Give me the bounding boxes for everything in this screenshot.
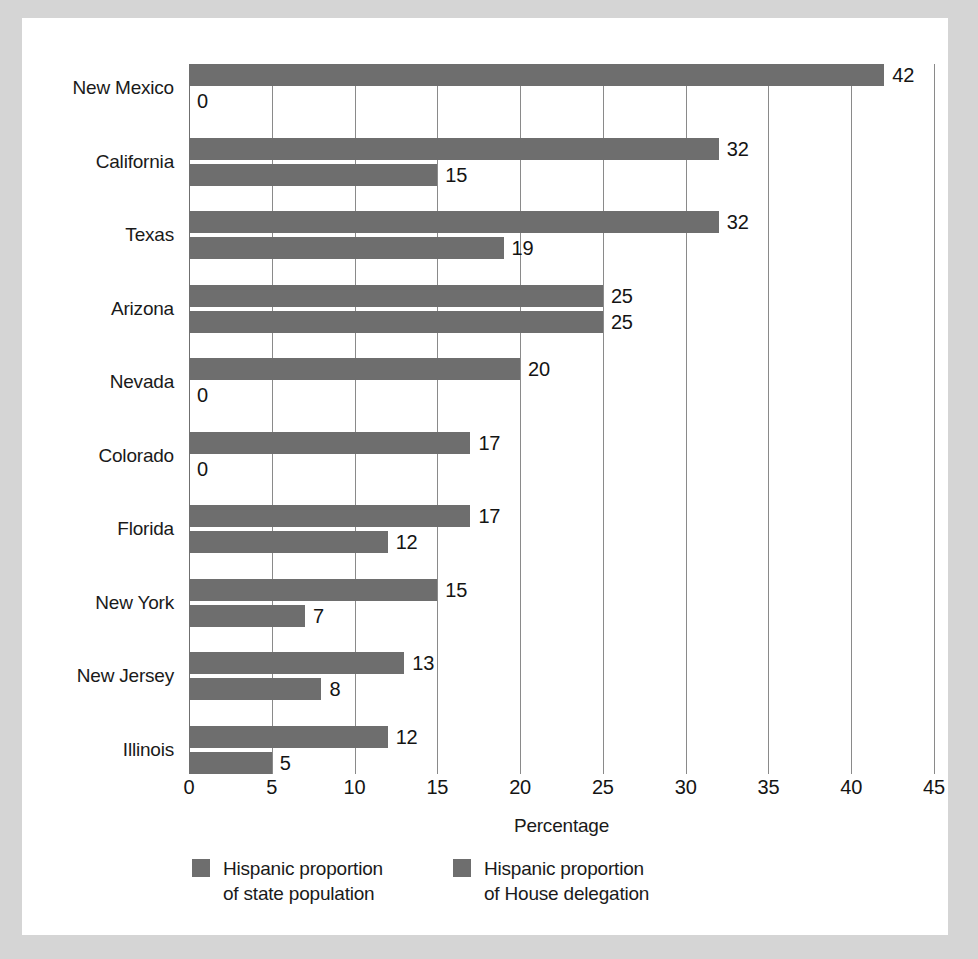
bar-row: 42 (189, 64, 934, 86)
bar-row: 13 (189, 652, 934, 674)
x-tick-label: 10 (344, 776, 366, 799)
x-tick-label: 5 (266, 776, 277, 799)
category-axis-labels: New MexicoCaliforniaTexasArizonaNevadaCo… (22, 64, 182, 774)
bar (189, 138, 719, 160)
bar-row: 32 (189, 138, 934, 160)
x-tick-label: 45 (923, 776, 945, 799)
bar-group: 138 (189, 652, 934, 700)
bar-value-label: 15 (445, 578, 467, 601)
category-label: Arizona (111, 298, 174, 320)
category-label: New Mexico (73, 77, 174, 99)
chart-card: New MexicoCaliforniaTexasArizonaNevadaCo… (22, 18, 948, 935)
bar-value-label: 7 (313, 604, 324, 627)
bar-value-label: 20 (528, 358, 550, 381)
bar-group: 3219 (189, 211, 934, 259)
legend-item: Hispanic proportion of state population (192, 856, 383, 906)
bar (189, 726, 388, 748)
bar-value-label: 12 (396, 726, 418, 749)
bar-row: 19 (189, 237, 934, 259)
bar-value-label: 25 (611, 310, 633, 333)
bar-row: 20 (189, 358, 934, 380)
x-tick-label: 20 (509, 776, 531, 799)
bar-value-label: 17 (478, 431, 500, 454)
plot-area: 4203215321925252001701712157138125 (189, 64, 934, 774)
bar-value-label: 17 (478, 505, 500, 528)
bar (189, 64, 884, 86)
chart-legend: Hispanic proportion of state populationH… (170, 856, 870, 926)
bar (189, 752, 272, 774)
x-tick-label: 15 (426, 776, 448, 799)
bar (189, 358, 520, 380)
category-label: Colorado (98, 445, 174, 467)
bar (189, 678, 321, 700)
bar-value-label: 0 (197, 457, 208, 480)
bar-row: 25 (189, 285, 934, 307)
bar-row: 15 (189, 579, 934, 601)
bar-row: 25 (189, 311, 934, 333)
bar-group: 3215 (189, 138, 934, 186)
bar (189, 605, 305, 627)
x-tick-label: 40 (840, 776, 862, 799)
legend-item: Hispanic proportion of House delegation (453, 856, 649, 906)
bar (189, 311, 603, 333)
bar-row: 0 (189, 458, 934, 480)
category-label: New Jersey (77, 665, 174, 687)
bar-value-label: 42 (892, 64, 914, 87)
x-axis-tick-labels: 051015202530354045 (189, 776, 934, 806)
bar-value-label: 0 (197, 384, 208, 407)
bar-group: 420 (189, 64, 934, 112)
bar (189, 432, 470, 454)
bar-row: 17 (189, 432, 934, 454)
bar-group: 2525 (189, 285, 934, 333)
bar-value-label: 12 (396, 531, 418, 554)
bar-group: 125 (189, 726, 934, 774)
bar-row: 17 (189, 505, 934, 527)
legend-swatch-icon (192, 859, 210, 877)
x-tick-label: 25 (592, 776, 614, 799)
bar (189, 579, 437, 601)
category-label: Nevada (110, 371, 174, 393)
x-axis-title: Percentage (189, 815, 934, 837)
bar-value-label: 8 (329, 678, 340, 701)
legend-swatch-icon (453, 859, 471, 877)
legend-label: Hispanic proportion of state population (223, 856, 383, 906)
bar-value-label: 5 (280, 752, 291, 775)
bar-row: 32 (189, 211, 934, 233)
bar-row: 15 (189, 164, 934, 186)
bar-row: 0 (189, 384, 934, 406)
category-label: California (96, 151, 174, 173)
bar-value-label: 0 (197, 90, 208, 113)
gridline-45 (934, 64, 935, 774)
category-label: Illinois (123, 739, 174, 761)
category-label: New York (95, 592, 174, 614)
bar (189, 285, 603, 307)
bar (189, 652, 404, 674)
bar-value-label: 25 (611, 284, 633, 307)
x-tick-label: 30 (675, 776, 697, 799)
bar (189, 211, 719, 233)
category-label: Florida (117, 518, 174, 540)
x-tick-label: 0 (184, 776, 195, 799)
bar-value-label: 19 (512, 237, 534, 260)
bar (189, 505, 470, 527)
bar-row: 12 (189, 531, 934, 553)
bar-groups: 4203215321925252001701712157138125 (189, 64, 934, 774)
legend-label: Hispanic proportion of House delegation (484, 856, 649, 906)
bar-group: 200 (189, 358, 934, 406)
bar (189, 164, 437, 186)
x-tick-label: 35 (758, 776, 780, 799)
figure-frame: New MexicoCaliforniaTexasArizonaNevadaCo… (0, 0, 978, 959)
bar (189, 237, 504, 259)
bar-value-label: 32 (727, 211, 749, 234)
bar (189, 531, 388, 553)
bar-group: 157 (189, 579, 934, 627)
bar-value-label: 15 (445, 163, 467, 186)
bar-row: 7 (189, 605, 934, 627)
bar-group: 1712 (189, 505, 934, 553)
bar-value-label: 13 (412, 652, 434, 675)
bar-row: 0 (189, 90, 934, 112)
category-label: Texas (125, 224, 174, 246)
bar-value-label: 32 (727, 137, 749, 160)
bar-row: 12 (189, 726, 934, 748)
bar-group: 170 (189, 432, 934, 480)
